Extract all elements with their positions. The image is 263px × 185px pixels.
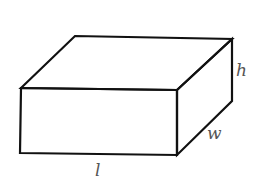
width-label: w [207,123,222,143]
top-face [21,36,232,90]
right-face [177,39,232,155]
box-diagram: h w l [0,0,263,185]
front-face [20,88,177,155]
height-label: h [236,60,247,80]
length-label: l [95,160,100,180]
